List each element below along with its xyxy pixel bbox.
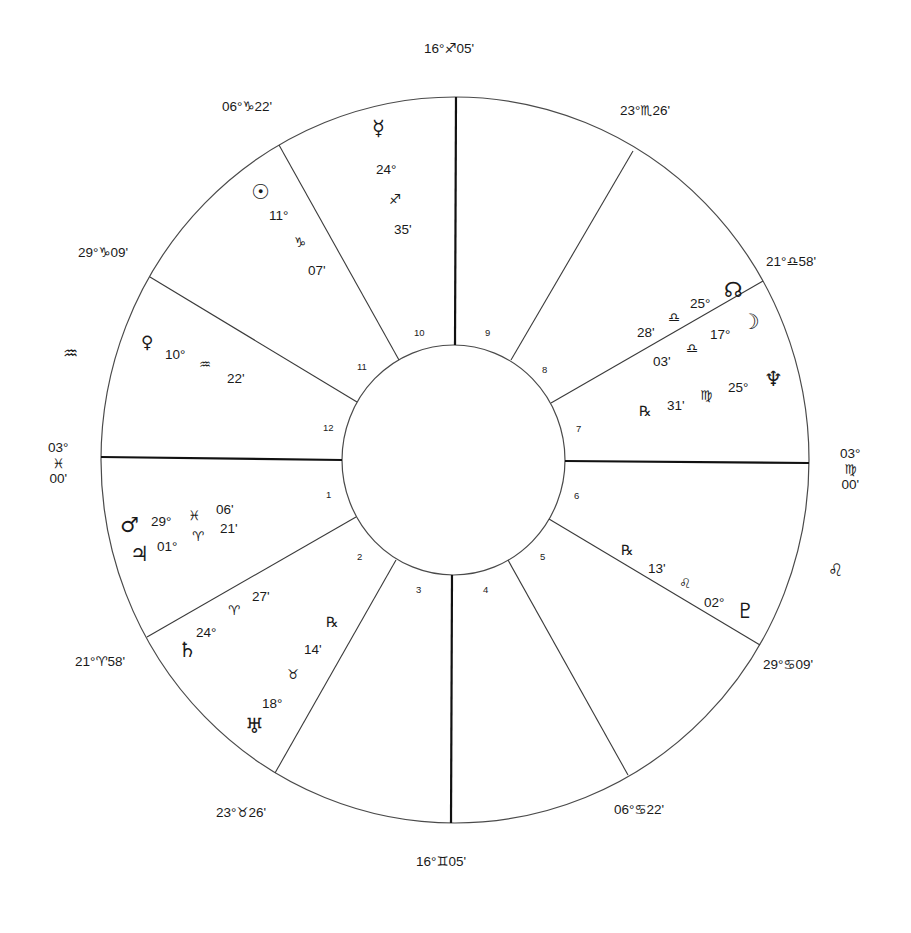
cusp-11-line [279, 145, 399, 360]
uranus-sign-taurus-icon: ♉ [287, 668, 299, 682]
house-number-6: 6 [574, 490, 579, 501]
mc-line [455, 97, 456, 345]
mercury-minutes: 35' [394, 223, 412, 237]
node-degree: 25° [690, 297, 710, 311]
mercury-sign-sagittarius-icon: ♐ [389, 193, 401, 207]
uranus-retrograde-icon: ℞ [326, 616, 339, 630]
cusp-label-12: 29°♑09' [78, 246, 128, 260]
libra-icon: ♎ [786, 253, 798, 269]
venus-degree: 10° [165, 348, 185, 362]
cusp-9-line [511, 151, 633, 360]
uranus-icon: ♅ [245, 716, 264, 737]
house-number-10: 10 [414, 327, 425, 338]
venus-sign-aquarius-icon: ♒ [199, 358, 211, 372]
cusp-2-line [147, 517, 356, 637]
ic-line [451, 575, 452, 823]
moon-minutes: 03' [653, 355, 671, 369]
north-node-icon: ☊ [724, 280, 743, 301]
cusp-label-5: 06°♋22' [614, 803, 664, 817]
cusp-label-asc: 03° ♓ 00' [48, 440, 68, 487]
cusp-label-dsc: 03° ♍ 00' [840, 446, 860, 493]
mars-sign-pisces-icon: ♓ [188, 509, 200, 523]
cusp-label-11: 06°♑22' [222, 100, 272, 114]
neptune-sign-virgo-icon: ♍ [700, 389, 712, 403]
inner-circle [342, 345, 565, 575]
cancer-icon: ♋ [634, 801, 646, 817]
cusp-label-9: 23°♏26' [620, 104, 670, 118]
virgo-icon: ♍ [840, 462, 860, 478]
jupiter-sign-aries-icon: ♈ [192, 530, 204, 544]
cusp-label-mc: 16°♐05' [424, 42, 474, 56]
scorpio-icon: ♏ [640, 102, 652, 118]
node-sign-libra-icon: ♎ [668, 311, 680, 325]
moon-degree: 17° [710, 328, 730, 342]
uranus-degree: 18° [262, 697, 282, 711]
pluto-retrograde-icon: ℞ [621, 544, 634, 558]
taurus-icon: ♉ [236, 804, 248, 820]
house-number-5: 5 [540, 551, 545, 562]
house-number-9: 9 [485, 327, 490, 338]
gemini-icon: ♊ [436, 853, 448, 869]
house-number-4: 4 [483, 584, 488, 595]
neptune-retrograde-icon: ℞ [639, 405, 652, 419]
house-number-3: 3 [416, 584, 421, 595]
house-number-8: 8 [542, 364, 547, 375]
sagittarius-icon: ♐ [444, 40, 456, 56]
mercury-degree: 24° [376, 163, 396, 177]
house-number-7: 7 [576, 423, 581, 434]
chart-wheel [0, 0, 911, 933]
cusp-label-3: 23°♉26' [216, 806, 266, 820]
pluto-minutes: 13' [648, 562, 666, 576]
venus-minutes: 22' [227, 372, 245, 386]
venus-icon: ♀ [141, 334, 153, 351]
cusp-6-line [549, 519, 760, 645]
house-number-2: 2 [357, 551, 362, 562]
house-number-1: 1 [326, 489, 331, 500]
pluto-degree: 02° [704, 596, 724, 610]
neptune-icon: ♆ [764, 369, 783, 390]
jupiter-minutes: 21' [220, 522, 238, 536]
neptune-degree: 25° [728, 381, 748, 395]
moon-sign-libra-icon: ♎ [686, 342, 698, 356]
saturn-icon: ♄ [178, 640, 197, 661]
capricorn-icon: ♑ [98, 244, 110, 260]
jupiter-degree: 01° [157, 540, 177, 554]
cusp-label-6: 29°♋09' [763, 658, 813, 672]
jupiter-icon: ♃ [130, 544, 149, 565]
sun-icon: ☉ [251, 182, 270, 203]
pisces-icon: ♓ [48, 456, 68, 472]
moon-icon: ☽ [741, 312, 760, 333]
cusp-5-line [508, 560, 628, 775]
cusp-label-2: 21°♈58' [75, 655, 125, 669]
mars-icon: ♂ [120, 515, 139, 536]
cusp-12-line [150, 277, 357, 402]
leo-intercepted-icon: ♌ [828, 562, 843, 579]
mercury-icon: ☿ [372, 118, 385, 139]
cusp-label-8: 21°♎58' [766, 255, 816, 269]
saturn-minutes: 27' [252, 590, 270, 604]
mars-minutes: 06' [216, 503, 234, 517]
sun-sign-capricorn-icon: ♑ [294, 236, 306, 250]
aquarius-intercepted-icon: ♒ [63, 345, 78, 362]
saturn-sign-aries-icon: ♈ [228, 604, 240, 618]
sun-degree: 11° [269, 209, 288, 223]
asc-line [101, 457, 342, 460]
uranus-minutes: 14' [304, 643, 322, 657]
saturn-degree: 24° [196, 626, 216, 640]
pluto-sign-leo-icon: ♌ [679, 577, 691, 591]
sun-minutes: 07' [308, 264, 326, 278]
capricorn-icon: ♑ [242, 98, 254, 114]
pluto-icon: ♇ [736, 601, 755, 622]
house-number-11: 11 [357, 361, 367, 372]
dsc-line [565, 461, 809, 463]
node-minutes: 28' [637, 326, 655, 340]
neptune-minutes: 31' [667, 399, 685, 413]
aries-icon: ♈ [95, 653, 107, 669]
cancer-icon: ♋ [783, 656, 795, 672]
cusp-label-ic: 16°♊05' [416, 855, 466, 869]
mars-degree: 29° [151, 515, 171, 529]
house-number-12: 12 [323, 422, 334, 433]
